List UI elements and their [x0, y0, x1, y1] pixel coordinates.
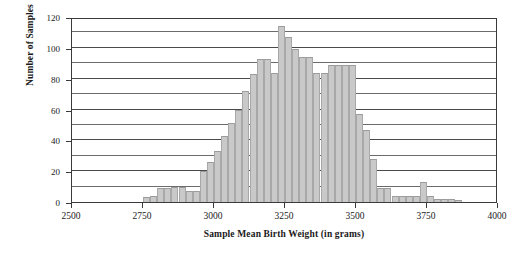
y-tick-label: 100 [30, 45, 60, 54]
x-tick-label: 2500 [51, 211, 91, 221]
histogram-bar [427, 196, 434, 202]
histogram-bar [228, 123, 235, 202]
histogram-bar [186, 191, 193, 202]
x-tick-mark [213, 203, 214, 208]
histogram-bar [257, 59, 264, 202]
histogram-bar [377, 188, 384, 202]
y-tick-label: 120 [30, 14, 60, 23]
histogram-bar [214, 151, 221, 202]
y-tick-label: 60 [30, 107, 60, 116]
histogram-bar [157, 188, 164, 202]
x-tick-mark [497, 203, 498, 208]
histogram-bar [356, 114, 363, 202]
y-tick-label: 0 [30, 199, 60, 208]
histogram-bar [292, 49, 299, 202]
histogram-bar [349, 65, 356, 202]
y-tick-label: 80 [30, 76, 60, 85]
histogram-bar [242, 91, 249, 202]
x-axis-title: Sample Mean Birth Weight (in grams) [71, 229, 497, 239]
histogram-bar [392, 196, 399, 202]
histogram-bar [200, 171, 207, 202]
histogram-bar [221, 136, 228, 202]
histogram-bar [150, 196, 157, 202]
x-tick-label: 3250 [264, 211, 304, 221]
histogram-bar [399, 196, 406, 202]
x-tick-label: 2750 [122, 211, 162, 221]
histogram-bar [179, 187, 186, 202]
y-tick-label: 20 [30, 168, 60, 177]
histogram-bar [171, 187, 178, 202]
x-tick-label: 3500 [335, 211, 375, 221]
x-tick-mark [426, 203, 427, 208]
histogram-bar [370, 159, 377, 202]
histogram-bar [448, 199, 455, 202]
x-tick-label: 4000 [477, 211, 517, 221]
histogram-bar [285, 37, 292, 202]
histogram-bar [321, 73, 328, 203]
x-tick-mark [284, 203, 285, 208]
histogram-bar [313, 73, 320, 203]
histogram-bar [342, 65, 349, 202]
histogram-bar [328, 65, 335, 202]
histogram-bar [250, 74, 257, 202]
histogram-bar [264, 59, 271, 202]
x-tick-label: 3750 [406, 211, 446, 221]
y-tick-label: 40 [30, 137, 60, 146]
histogram-bar [335, 65, 342, 202]
histogram-bar [384, 188, 391, 202]
histogram-bar [235, 110, 242, 203]
histogram-bar [363, 130, 370, 202]
histogram-bar [420, 182, 427, 202]
x-tick-mark [71, 203, 72, 208]
histogram-bar [271, 73, 278, 203]
histogram-bar [434, 199, 441, 202]
histogram-bar [193, 191, 200, 202]
histogram-bar [278, 26, 285, 202]
histogram-bar [441, 199, 448, 202]
histogram-bar [164, 188, 171, 202]
histogram-figure: Number of Samples 020406080100120 250027… [0, 0, 519, 254]
histogram-bar [306, 57, 313, 202]
histogram-bar [406, 196, 413, 202]
histogram-bar [455, 200, 462, 202]
histogram-bar [207, 162, 214, 202]
histogram-bar [299, 57, 306, 202]
x-tick-mark [142, 203, 143, 208]
x-tick-label: 3000 [193, 211, 233, 221]
histogram-bar [413, 196, 420, 202]
x-tick-mark [355, 203, 356, 208]
histogram-bar [143, 197, 150, 202]
plot-area [71, 18, 497, 203]
